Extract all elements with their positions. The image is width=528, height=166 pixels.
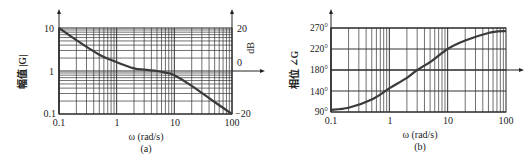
phase-chart: 270° 220° 180° 140° 90° 0.1 1 10 100 ω (… xyxy=(288,9,524,153)
db-axis-arrow-icon xyxy=(230,9,234,14)
magnitude-y-axis-arrow-icon xyxy=(57,9,61,14)
magnitude-x-tick-10: 10 xyxy=(170,117,180,128)
magnitude-grid xyxy=(59,28,232,114)
db-tick-0: 0 xyxy=(237,57,242,68)
magnitude-x-axis-label: ω (rad/s) xyxy=(128,131,163,143)
magnitude-y-tick-1: 1 xyxy=(49,66,54,77)
magnitude-y-tick-10: 10 xyxy=(44,23,54,34)
phase-x-tick-1: 1 xyxy=(388,115,393,126)
db-axis-label: dB xyxy=(245,42,256,54)
phase-x-tick-0.1: 0.1 xyxy=(325,115,338,126)
phase-y-tick-270: 270° xyxy=(310,23,328,33)
phase-y-tick-140: 140° xyxy=(310,87,328,97)
phase-caption: (b) xyxy=(414,141,426,153)
magnitude-x-tick-100: 100 xyxy=(225,117,240,128)
zero-db-arrow-icon xyxy=(260,69,265,73)
magnitude-caption: (a) xyxy=(140,143,151,155)
db-tick-20: 20 xyxy=(237,23,247,34)
phase-y-tick-220: 220° xyxy=(310,44,328,54)
phase-y-axis-arrow-icon xyxy=(329,9,333,14)
phase-180-arrow-icon xyxy=(519,68,524,72)
phase-x-tick-10: 10 xyxy=(443,115,453,126)
magnitude-y-axis-label: 幅值 |G| xyxy=(16,55,28,90)
magnitude-x-tick-1: 1 xyxy=(115,117,120,128)
phase-x-axis-label: ω (rad/s) xyxy=(402,129,437,141)
phase-y-tick-180: 180° xyxy=(310,65,328,75)
magnitude-chart: 10 1 0.1 20 0 −20 dB 0.1 1 10 100 ω (rad… xyxy=(16,9,265,155)
phase-x-tick-100: 100 xyxy=(499,115,514,126)
bode-plots: 10 1 0.1 20 0 −20 dB 0.1 1 10 100 ω (rad… xyxy=(0,0,528,166)
magnitude-x-tick-0.1: 0.1 xyxy=(53,117,66,128)
phase-y-axis-label: 相位 ∠G xyxy=(288,50,300,89)
